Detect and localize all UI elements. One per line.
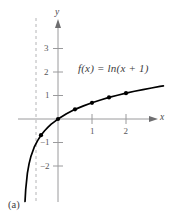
data-point-marker <box>107 95 111 99</box>
x-tick-label-1: 1 <box>90 127 95 136</box>
panel-label: (a) <box>8 200 20 211</box>
y-axis-label: y <box>55 8 59 18</box>
data-point-marker <box>73 107 77 111</box>
data-point-marker <box>56 117 60 121</box>
data-point-markers <box>39 91 128 137</box>
y-tick-label-2: 2 <box>44 68 49 77</box>
equation-annotation: f(x) = ln(x + 1) <box>78 63 149 74</box>
y-axis-arrowhead <box>55 19 61 28</box>
y-tick-label-3: 3 <box>44 44 49 53</box>
data-point-marker <box>124 91 128 95</box>
y-tick-label-1: 1 <box>45 91 50 100</box>
y-tick-label-neg2: −2 <box>40 162 50 171</box>
graph-plot <box>0 0 171 222</box>
x-axis-arrowhead <box>149 116 158 122</box>
x-tick-label-2: 2 <box>124 127 129 136</box>
figure-container: 3 2 1 −1 −2 1 2 x y f(x) = ln(x + 1) (a) <box>0 0 171 222</box>
y-tick-label-neg1: −1 <box>40 138 50 147</box>
data-point-marker <box>90 101 94 105</box>
x-axis-label: x <box>160 113 164 123</box>
